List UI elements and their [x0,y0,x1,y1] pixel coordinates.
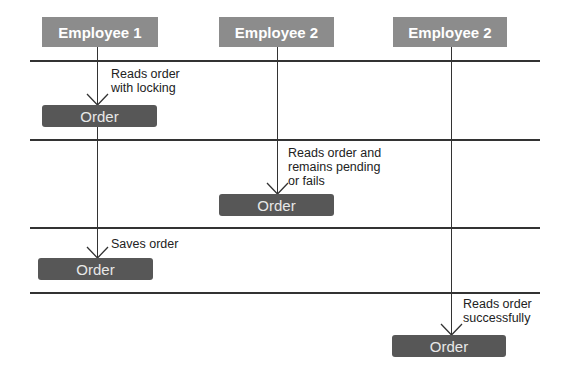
order-box-3: Order [38,258,153,280]
header-employee-1: Employee 1 [42,17,158,47]
order-box-4: Order [392,335,506,357]
header-employee-2-right: Employee 2 [393,17,507,47]
header-employee-2-middle: Employee 2 [219,17,334,47]
order-box-2: Order [219,194,334,216]
lifeline-employee-1 [97,47,98,260]
step-label-reads-pending-or-fails: Reads order and remains pending or fails [288,146,381,188]
step-label-reads-successfully: Reads order successfully [463,297,532,325]
separator-line-1 [30,60,540,62]
step-label-reads-with-locking: Reads order with locking [111,67,180,95]
step-label-saves-order: Saves order [111,237,178,251]
separator-line-4 [30,292,540,294]
separator-line-2 [30,139,540,141]
lifeline-employee-2-middle [277,47,278,195]
lifeline-employee-2-right [451,47,452,336]
order-box-1: Order [42,105,157,127]
separator-line-3 [30,227,540,229]
